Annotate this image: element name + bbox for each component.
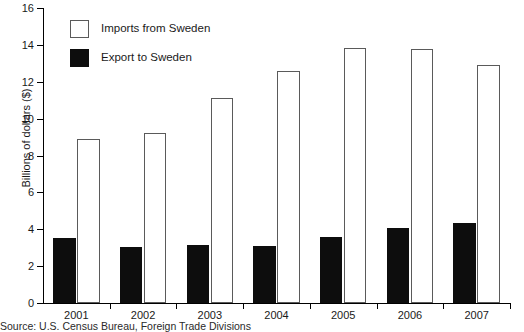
bar-imports <box>477 65 500 303</box>
y-tick-label: 16 <box>0 3 34 14</box>
bar-exports <box>387 228 410 303</box>
chart-legend: Imports from Sweden Export to Sweden <box>70 18 210 76</box>
bar-imports <box>411 49 434 303</box>
x-tick <box>110 303 111 309</box>
y-tick-label: 12 <box>0 76 34 87</box>
y-tick <box>37 192 43 193</box>
bar-exports <box>253 246 276 303</box>
bar-imports <box>277 71 300 303</box>
x-tick <box>243 303 244 309</box>
y-tick <box>37 82 43 83</box>
y-tick <box>37 119 43 120</box>
x-tick-label: 2006 <box>398 310 422 321</box>
y-tick-label: 2 <box>0 261 34 272</box>
x-tick-label: 2007 <box>464 310 488 321</box>
x-tick <box>443 303 444 309</box>
y-tick-label: 4 <box>0 224 34 235</box>
source-note: Source: U.S. Census Bureau, Foreign Trad… <box>0 320 251 332</box>
y-tick <box>37 229 43 230</box>
legend-item-imports: Imports from Sweden <box>70 18 210 40</box>
y-tick-label: 0 <box>0 298 34 309</box>
legend-swatch-imports-icon <box>70 20 89 38</box>
y-tick-label: 6 <box>0 187 34 198</box>
x-tick <box>310 303 311 309</box>
bar-imports <box>77 139 100 303</box>
bar-exports <box>187 245 210 303</box>
x-tick <box>377 303 378 309</box>
legend-label-imports: Imports from Sweden <box>101 23 210 35</box>
y-tick <box>37 266 43 267</box>
y-axis-line <box>43 8 44 304</box>
y-tick <box>37 156 43 157</box>
y-tick <box>37 45 43 46</box>
bar-exports <box>320 237 343 303</box>
x-tick <box>176 303 177 309</box>
x-tick <box>510 303 511 309</box>
y-tick-label: 14 <box>0 39 34 50</box>
legend-swatch-exports-icon <box>70 49 89 67</box>
bar-exports <box>53 238 76 303</box>
y-tick-label: 8 <box>0 150 34 161</box>
legend-item-exports: Export to Sweden <box>70 47 210 69</box>
legend-label-exports: Export to Sweden <box>101 52 192 64</box>
bar-imports <box>344 48 367 303</box>
bar-imports <box>144 133 167 303</box>
bar-exports <box>453 223 476 303</box>
x-tick-label: 2004 <box>264 310 288 321</box>
bar-exports <box>120 247 143 303</box>
bar-imports <box>211 98 234 303</box>
x-tick-label: 2005 <box>331 310 355 321</box>
y-tick <box>37 8 43 9</box>
y-tick-label: 10 <box>0 113 34 124</box>
y-tick <box>37 303 43 304</box>
x-axis-line <box>43 303 510 304</box>
